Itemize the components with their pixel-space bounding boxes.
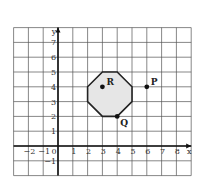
x-axis-label: x <box>187 147 192 156</box>
x-tick-label: 4 <box>116 147 121 156</box>
x-tick-label: 0 <box>51 147 56 156</box>
x-tick-label: 5 <box>130 147 135 156</box>
x-tick-label: 7 <box>160 147 165 156</box>
y-axis-label: y <box>51 27 57 36</box>
point-p-dot <box>144 84 149 89</box>
y-tick-label: 5 <box>51 68 56 77</box>
point-p-label: P <box>151 77 158 87</box>
y-tick-label: 4 <box>51 83 56 92</box>
y-tick-label: 7 <box>51 38 56 47</box>
x-tick-label: −1 <box>38 147 50 156</box>
y-tick-label: 6 <box>51 53 56 62</box>
y-tick-label: 2 <box>51 112 56 121</box>
coordinate-grid-diagram: −2−1012345678−11234567xy RPQ <box>0 0 199 187</box>
point-r-label: R <box>106 77 114 87</box>
x-tick-label: 6 <box>145 147 150 156</box>
x-tick-label: 8 <box>175 147 180 156</box>
x-tick-label: 1 <box>71 147 76 156</box>
y-tick-label: −1 <box>44 157 56 166</box>
y-tick-label: 3 <box>51 98 56 107</box>
point-q-label: Q <box>120 118 128 128</box>
x-tick-label: 2 <box>86 147 91 156</box>
x-tick-label: 3 <box>101 147 106 156</box>
y-tick-label: 1 <box>51 127 56 136</box>
point-r-dot <box>100 84 105 89</box>
x-tick-label: −2 <box>24 147 36 156</box>
point-q-dot <box>115 114 120 119</box>
